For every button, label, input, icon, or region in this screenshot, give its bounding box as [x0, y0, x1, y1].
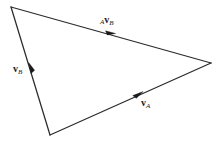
label-top-edge-vector: AvB	[100, 15, 114, 27]
label-left-subscript: B	[18, 68, 22, 76]
top-edge-arrowhead-icon	[106, 31, 116, 35]
label-top-subscript: B	[109, 19, 113, 27]
bottom-right-edge-line	[50, 63, 211, 135]
label-bottom-right-subscript: A	[146, 102, 150, 110]
label-left-edge-vector: vB	[13, 64, 22, 76]
label-bottom-right-edge-vector: vA	[141, 98, 150, 110]
vector-triangle-figure: AvB vB vA	[0, 0, 221, 147]
